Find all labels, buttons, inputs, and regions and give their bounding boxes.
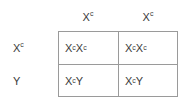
punnett-cell-r1c0-allele2-base: Y bbox=[76, 75, 83, 87]
punnett-cell-r1c0-allele1-base: X bbox=[65, 75, 72, 87]
punnett-cell-r1c0: XcY bbox=[59, 64, 118, 96]
punnett-cell-r1c1: XcY bbox=[118, 64, 177, 96]
punnett-cell-r1c1-allele2-base: Y bbox=[136, 75, 143, 87]
punnett-cell-r0c1-allele1-base: X bbox=[125, 42, 132, 54]
row-label-1: Y bbox=[13, 73, 53, 89]
punnett-square-figure: Xc Xc Xc Y XcXc XcXc XcY XcY bbox=[0, 0, 186, 108]
column-header-0-base: X bbox=[83, 11, 90, 23]
column-header-1-superscript: c bbox=[150, 10, 154, 17]
punnett-cell-r1c1-allele1-base: X bbox=[125, 75, 132, 87]
punnett-cell-r0c1-allele2-base: X bbox=[136, 42, 143, 54]
row-label-0-superscript: c bbox=[20, 41, 24, 48]
punnett-grid: XcXc XcXc XcY XcY bbox=[58, 31, 178, 97]
row-label-0: Xc bbox=[13, 40, 53, 56]
column-header-1: Xc bbox=[118, 9, 178, 25]
punnett-cell-r0c1: XcXc bbox=[118, 32, 177, 64]
column-header-0-superscript: c bbox=[90, 10, 94, 17]
column-header-0: Xc bbox=[58, 9, 118, 25]
punnett-cell-r0c0-allele2-base: X bbox=[76, 42, 83, 54]
row-label-1-base: Y bbox=[13, 75, 20, 87]
column-header-1-base: X bbox=[143, 11, 150, 23]
punnett-cell-r0c0-allele1-base: X bbox=[65, 42, 72, 54]
punnett-cell-r0c0: XcXc bbox=[59, 32, 118, 64]
